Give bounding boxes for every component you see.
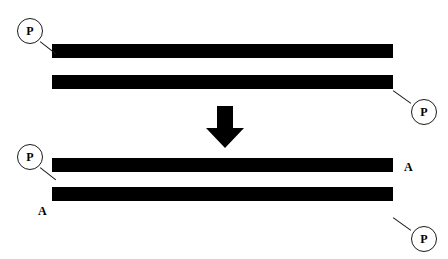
diagram-canvas: P P P P A A bbox=[0, 0, 448, 259]
bottom-strand-upper bbox=[52, 158, 393, 172]
callout-top-right-p-label: P bbox=[420, 106, 427, 118]
downward-arrow-icon bbox=[205, 106, 245, 148]
callout-bottom-left-p: P bbox=[17, 144, 43, 170]
label-bottom-right-a: A bbox=[404, 161, 413, 173]
callout-bottom-right-p: P bbox=[411, 226, 437, 252]
callout-top-right-p: P bbox=[411, 99, 437, 125]
top-strand-upper bbox=[52, 44, 393, 58]
top-strand-lower bbox=[52, 75, 393, 89]
label-bottom-left-a: A bbox=[38, 205, 47, 217]
callout-bottom-left-p-label: P bbox=[26, 151, 33, 163]
bottom-strand-lower bbox=[52, 187, 393, 201]
callout-bottom-right-p-label: P bbox=[420, 233, 427, 245]
callout-top-left-p-label: P bbox=[26, 25, 33, 37]
top-right-p-leader-line bbox=[393, 90, 412, 104]
callout-top-left-p: P bbox=[17, 18, 43, 44]
bottom-right-p-leader-line bbox=[393, 217, 412, 231]
